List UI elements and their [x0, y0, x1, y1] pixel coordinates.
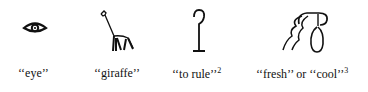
caption-to-rule: ‘‘to rule’’2 [172, 66, 221, 82]
footnote-marker: 3 [344, 66, 348, 75]
caption-eye: ‘‘eye’’ [18, 66, 49, 81]
water-jar-hieroglyph-icon [277, 10, 335, 54]
caption-fresh-or-cool: ‘‘fresh’’ or ‘‘cool’’3 [256, 66, 348, 82]
giraffe-hieroglyph-icon [98, 8, 138, 54]
crook-hieroglyph-icon [190, 8, 210, 54]
eye-hieroglyph-icon [22, 20, 48, 36]
caption-giraffe: ‘‘giraffe’’ [94, 66, 140, 81]
footnote-marker: 2 [217, 66, 221, 75]
